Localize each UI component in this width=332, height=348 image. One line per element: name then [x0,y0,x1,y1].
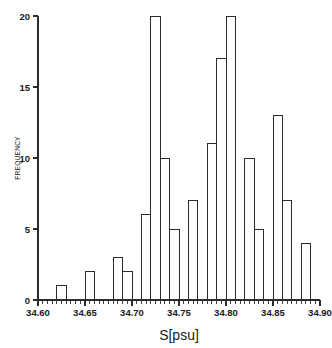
x-tick-label: 34.85 [261,307,285,318]
histogram-bar [217,59,226,300]
y-tick-label: 20 [19,11,30,22]
histogram-bar [141,215,150,300]
histogram-bar [301,243,310,300]
histogram-chart: 34.6034.6534.7034.7534.8034.8534.9005101… [0,0,332,348]
x-tick-label: 34.60 [26,307,50,318]
histogram-bar [151,16,160,300]
histogram-bar [282,201,291,300]
x-tick-label: 34.75 [167,307,191,318]
histogram-bar [85,272,94,300]
x-tick-label: 34.65 [73,307,97,318]
histogram-bar [123,272,132,300]
y-tick-label: 0 [25,295,30,306]
x-tick-label: 34.80 [214,307,238,318]
histogram-bar [113,257,122,300]
y-axis-title: FREQUENCY [14,136,22,180]
histogram-bar [188,201,197,300]
histogram-bar [170,229,179,300]
histogram-bar [226,16,235,300]
histogram-bar [273,115,282,300]
histogram-bar [160,158,169,300]
histogram-bar [57,286,66,300]
x-tick-label: 34.90 [308,307,332,318]
histogram-bar [254,229,263,300]
y-tick-label: 5 [25,224,31,235]
chart-canvas: 34.6034.6534.7034.7534.8034.8534.9005101… [0,0,332,348]
histogram-bar [245,158,254,300]
x-axis-title: S[psu] [159,327,199,343]
y-tick-label: 15 [19,82,30,93]
x-tick-label: 34.70 [120,307,144,318]
y-tick-label: 10 [19,153,30,164]
histogram-bar [207,144,216,300]
